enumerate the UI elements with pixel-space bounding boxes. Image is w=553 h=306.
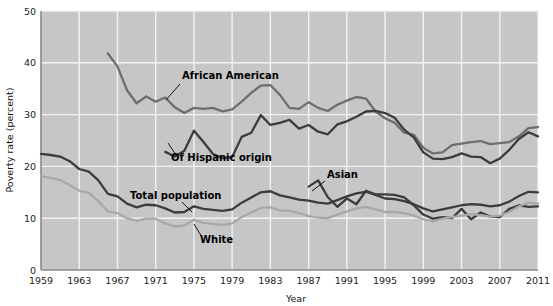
y-tick-label: 50 xyxy=(24,6,36,17)
y-tick-label: 0 xyxy=(30,265,36,276)
x-tick-label: 1991 xyxy=(335,275,359,286)
x-tick-label: 1967 xyxy=(105,275,129,286)
y-tick-label: 40 xyxy=(24,57,36,68)
series-label-total-population: Total population xyxy=(130,190,221,201)
x-tick-label: 2011 xyxy=(526,275,550,286)
series-label-asian: Asian xyxy=(327,169,358,180)
x-axis-title: Year xyxy=(285,293,306,304)
x-tick-label: 1971 xyxy=(144,275,168,286)
x-tick-label: 1987 xyxy=(297,275,321,286)
y-tick-label: 30 xyxy=(24,109,36,120)
x-tick-label: 1999 xyxy=(411,275,435,286)
y-tick-label: 10 xyxy=(24,213,36,224)
y-tick-label: 20 xyxy=(24,161,36,172)
x-tick-label: 1963 xyxy=(67,275,91,286)
chart-svg: 1959196319671971197519791983198719911995… xyxy=(0,0,553,306)
x-tick-label: 1979 xyxy=(220,275,244,286)
x-tick-label: 2007 xyxy=(488,275,512,286)
x-tick-label: 2003 xyxy=(449,275,473,286)
plot-area-background xyxy=(41,11,538,270)
series-label-white: White xyxy=(200,234,233,245)
y-axis-title: Poverty rate (percent) xyxy=(4,87,15,192)
series-label-of-hispanic-origin: Of Hispanic origin xyxy=(171,152,272,163)
x-tick-label: 1983 xyxy=(258,275,282,286)
series-label-african-american: African American xyxy=(182,70,279,81)
x-tick-label: 1975 xyxy=(182,275,206,286)
poverty-rate-chart: 1959196319671971197519791983198719911995… xyxy=(0,0,553,306)
x-tick-label: 1959 xyxy=(29,275,53,286)
plot-background xyxy=(41,11,538,270)
x-tick-label: 1995 xyxy=(373,275,397,286)
